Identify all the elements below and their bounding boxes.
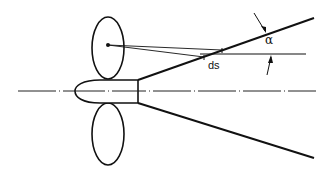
upper-cone-line xyxy=(138,18,314,80)
alpha-arrow-bottom xyxy=(267,55,273,75)
lower-cone-line xyxy=(138,103,314,158)
propeller-diagram xyxy=(0,0,331,176)
lower-blade xyxy=(92,103,124,165)
ds-label: ds xyxy=(208,60,220,71)
upper-blade xyxy=(92,17,124,79)
alpha-arrow-top xyxy=(254,13,266,33)
alpha-label: α xyxy=(265,34,273,46)
